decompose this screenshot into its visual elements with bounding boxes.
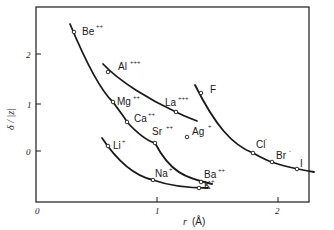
point-ag: [185, 135, 189, 139]
point-ca: [125, 120, 129, 124]
svg-text:Na: Na: [155, 168, 168, 179]
point-i: [295, 167, 299, 171]
y-axis-title: δ / |z|: [5, 108, 16, 130]
label-sr: Sr ++: [152, 124, 174, 137]
svg-text:+++: +++: [178, 95, 189, 101]
chart: 2 1 0 0 1 2 r (Å) δ / |z|: [0, 0, 334, 230]
point-sr: [153, 141, 157, 145]
label-br: Br -: [276, 148, 291, 161]
point-li: [106, 144, 110, 148]
label-li: Li +: [113, 138, 126, 151]
y-tick-1: 1: [27, 100, 32, 110]
svg-text:++: ++: [166, 124, 174, 130]
y-axis: [36, 54, 41, 151]
svg-text:+: +: [208, 123, 212, 129]
svg-text:+++: +++: [130, 59, 141, 65]
y-tick-2: 2: [26, 50, 31, 60]
x-axis: [157, 197, 278, 202]
point-be: [72, 30, 76, 34]
y-tick-0: 0: [26, 147, 31, 157]
point-mg: [111, 100, 115, 104]
svg-text:-: -: [289, 148, 291, 154]
point-cl: [251, 151, 255, 155]
label-la: La +++: [165, 95, 189, 108]
svg-text:Be: Be: [82, 26, 95, 37]
svg-text:+: +: [169, 166, 173, 172]
point-k: [197, 186, 201, 190]
svg-text:++: ++: [96, 23, 104, 29]
svg-text:+: +: [122, 138, 126, 144]
label-na: Na +: [155, 166, 173, 179]
label-ag: Ag +: [192, 123, 212, 137]
svg-text:Ca: Ca: [134, 113, 147, 124]
point-br: [270, 160, 274, 164]
svg-text:Br: Br: [276, 150, 287, 161]
x-tick-2: 2: [275, 206, 280, 216]
point-ba: [199, 180, 203, 184]
label-ca: Ca ++: [134, 111, 156, 124]
label-cl: Cl -: [256, 136, 267, 150]
x-tick-1: 1: [155, 206, 160, 216]
x-axis-title: r (Å): [183, 215, 205, 227]
svg-text:r: r: [183, 216, 187, 227]
curve-alkaline-earth: [70, 24, 212, 184]
svg-text:++: ++: [218, 167, 226, 173]
label-ba: Ba ++: [204, 167, 226, 180]
svg-text:La: La: [165, 97, 177, 108]
svg-text:Mg: Mg: [117, 96, 131, 107]
svg-text:++: ++: [133, 94, 141, 100]
point-f: [199, 91, 203, 95]
svg-text:Ag: Ag: [192, 126, 204, 137]
svg-text:K: K: [204, 180, 211, 191]
curve-halide: [195, 85, 314, 172]
label-mg: Mg ++: [117, 94, 141, 107]
svg-text:+: +: [211, 178, 215, 184]
x-tick-0: 0: [35, 206, 40, 216]
point-al: [106, 70, 110, 74]
svg-text:(Å): (Å): [192, 215, 205, 227]
label-al: Al +++: [118, 59, 141, 72]
label-be: Be ++: [82, 23, 104, 37]
svg-text:Sr: Sr: [152, 126, 163, 137]
label-i: I: [300, 158, 303, 169]
svg-text:-: -: [265, 136, 267, 142]
svg-text:Al: Al: [118, 61, 127, 72]
label-f: F: [210, 84, 216, 95]
label-k: K +: [204, 178, 215, 191]
svg-text:++: ++: [148, 111, 156, 117]
point-la: [174, 110, 178, 114]
svg-text:Li: Li: [113, 140, 121, 151]
